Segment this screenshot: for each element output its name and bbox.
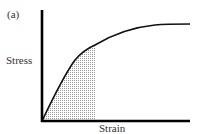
stress-strain-chart [0, 0, 198, 134]
shaded-area [42, 45, 95, 121]
